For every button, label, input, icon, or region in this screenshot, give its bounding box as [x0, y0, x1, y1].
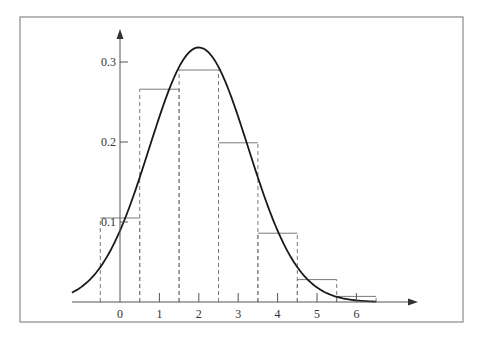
x-tick-label: 6 [353, 307, 359, 321]
x-tick-label: 1 [156, 307, 162, 321]
x-tick-label: 0 [117, 307, 123, 321]
y-tick-label: 0.2 [101, 135, 116, 149]
histogram-bar [219, 143, 258, 302]
x-tick-label: 2 [196, 307, 202, 321]
histogram-bar [140, 89, 179, 302]
histogram-bar [258, 233, 297, 302]
chart-frame [20, 17, 463, 322]
histogram-bar [179, 70, 218, 302]
x-tick-label: 4 [275, 307, 281, 321]
x-tick-label: 3 [235, 307, 241, 321]
normal-curve [72, 48, 376, 302]
y-tick-label: 0.1 [101, 215, 116, 229]
y-tick-label: 0.3 [101, 55, 116, 69]
x-axis-arrow-icon [408, 299, 418, 306]
x-tick-label: 5 [314, 307, 320, 321]
histogram-bars [100, 70, 376, 302]
x-axis: 0123456 [72, 293, 418, 321]
y-axis-arrow-icon [117, 29, 124, 39]
chart: 0123456 0.10.20.3 [0, 0, 480, 339]
